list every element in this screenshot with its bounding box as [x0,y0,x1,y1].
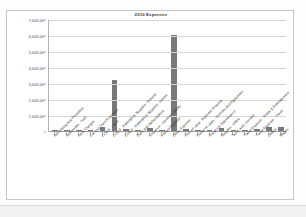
y-axis-tick [44,68,46,69]
chart-page: 2010 Expenses 7,000.006,000.005,000.004,… [0,0,306,217]
y-axis-tick-label: 6,000.00 [29,34,44,39]
y-axis-tick [44,84,46,85]
y-axis-tick-label: 5,000.00 [29,50,44,55]
y-axis-tick [44,132,46,133]
gridline [49,68,286,69]
gridline [49,100,286,101]
y-axis-tick [44,116,46,117]
chart-frame: 2010 Expenses 7,000.006,000.005,000.004,… [6,10,294,200]
y-axis-tick [44,36,46,37]
gridline [49,36,286,37]
gridline [49,52,286,53]
y-axis-tick [44,100,46,101]
gridline [49,84,286,85]
y-axis-tick-label: 3,000.00 [29,82,44,87]
y-axis-tick [44,20,46,21]
x-axis-labels: Advertising and PromotionAutomobile - Fu… [48,135,298,209]
page-bottom-band [0,205,306,217]
y-axis-tick-label: 1,000.00 [29,114,44,119]
gridline [49,20,286,21]
y-axis-tick-label: 7,000.00 [29,18,44,23]
chart-title: 2010 Expenses [7,12,295,17]
y-axis-tick-label: 4,000.00 [29,66,44,71]
y-axis-tick-label: 2,000.00 [29,98,44,103]
y-axis: 7,000.006,000.005,000.004,000.003,000.00… [7,20,46,132]
y-axis-tick [44,52,46,53]
